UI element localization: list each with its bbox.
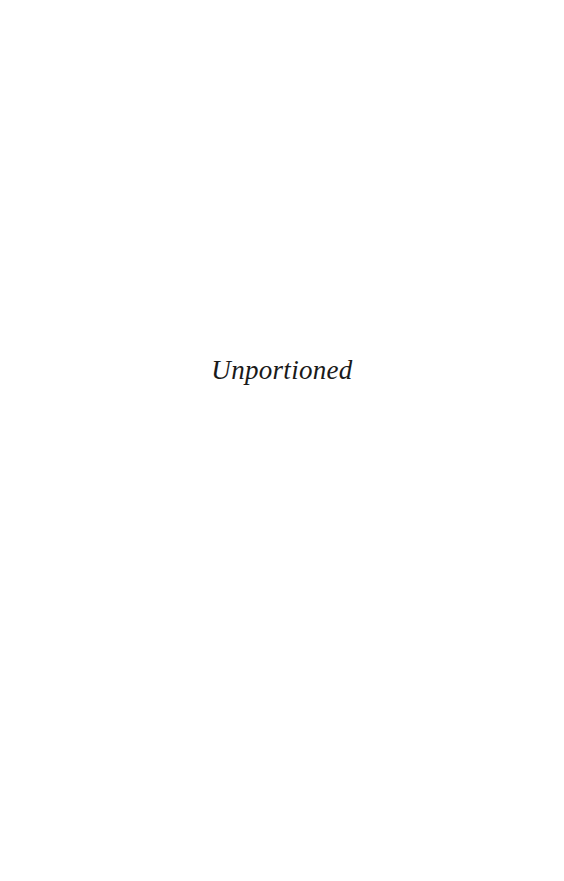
half-title: Unportioned [0, 352, 564, 388]
book-page: Unportioned [0, 0, 564, 881]
